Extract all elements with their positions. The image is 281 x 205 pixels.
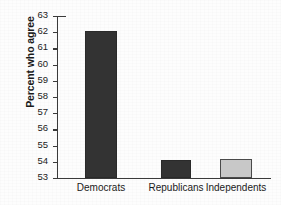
y-axis-tick-mark xyxy=(53,129,58,130)
y-axis-tick-label: 61 xyxy=(37,41,48,52)
y-axis-tick-label: 63 xyxy=(37,9,48,20)
x-axis-category-label: Republicans xyxy=(148,182,203,193)
y-axis-tick-mark xyxy=(53,16,58,17)
y-axis-tick-mark xyxy=(53,97,58,98)
y-axis-tick-label: 53 xyxy=(37,171,48,182)
y-axis-tick-label: 62 xyxy=(37,25,48,36)
y-axis-tick-label: 54 xyxy=(37,155,48,166)
y-axis-tick-label: 55 xyxy=(37,139,48,150)
y-axis-tick-mark xyxy=(53,48,58,49)
y-axis-tick-label: 56 xyxy=(37,122,48,133)
y-axis-tick-label: 60 xyxy=(37,58,48,69)
y-axis-title: Percent who agree xyxy=(24,0,36,128)
plot-top-border-stub xyxy=(57,16,66,17)
y-axis-tick-mark xyxy=(53,113,58,114)
x-axis-baseline xyxy=(57,178,271,179)
bar-democrats xyxy=(85,31,117,178)
bar-republicans xyxy=(161,160,191,178)
y-axis-tick-label: 58 xyxy=(37,90,48,101)
y-axis-tick-label: 57 xyxy=(37,106,48,117)
bar-independents xyxy=(220,159,252,178)
x-axis-category-label: Democrats xyxy=(77,182,125,193)
y-axis-tick-mark xyxy=(53,65,58,66)
y-axis-tick-mark xyxy=(53,32,58,33)
y-axis-tick-mark xyxy=(53,162,58,163)
y-axis-tick-mark xyxy=(53,146,58,147)
y-axis-tick-mark xyxy=(53,81,58,82)
y-axis-spine xyxy=(57,16,58,179)
y-axis-tick-label: 59 xyxy=(37,74,48,85)
y-axis-tick-mark xyxy=(53,178,58,179)
x-axis-category-label: Independents xyxy=(206,182,267,193)
bar-chart-figure: Percent who agree 5354555657585960616263… xyxy=(0,0,281,205)
